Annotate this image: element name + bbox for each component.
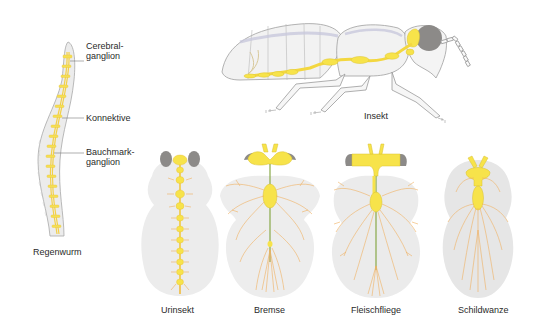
diagram-canvas: Cerebral- ganglion Konnektive Bauchmark-… <box>0 0 546 320</box>
callout-bauchmarkganglion-line2: ganglion <box>86 157 135 167</box>
callout-bauchmarkganglion: Bauchmark- ganglion <box>86 147 135 167</box>
callout-cerebralganglion-line2: ganglion <box>86 51 124 61</box>
callout-cerebralganglion-line1: Cerebral- <box>86 41 124 51</box>
label-schildwanze: Schildwanze <box>458 305 509 315</box>
diagram-illustrations <box>0 0 546 320</box>
label-regenwurm: Regenwurm <box>33 247 82 257</box>
fleischfliege-illustration <box>332 144 420 298</box>
label-urinsekt: Urinsekt <box>161 305 194 315</box>
label-fleischfliege: Fleischfliege <box>351 305 401 315</box>
label-insekt: Insekt <box>364 111 388 121</box>
callout-cerebralganglion: Cerebral- ganglion <box>86 41 124 61</box>
schildwanze-illustration <box>443 156 514 298</box>
earthworm-illustration <box>38 42 84 236</box>
callout-konnektive: Konnektive <box>86 113 131 123</box>
insect-side-illustration <box>222 24 470 123</box>
label-bremse: Bremse <box>254 305 285 315</box>
callout-konnektive-line1: Konnektive <box>86 113 131 123</box>
urinsekt-illustration <box>141 151 218 296</box>
callout-bauchmarkganglion-line1: Bauchmark- <box>86 147 135 157</box>
bremse-illustration <box>220 144 320 298</box>
